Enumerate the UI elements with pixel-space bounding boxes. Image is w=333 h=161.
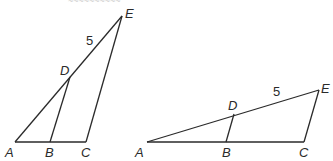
label-E-right: E xyxy=(321,81,330,96)
diagram-canvas: ~~~~~~~~~~ A B C D E 5 A B C D E 5 xyxy=(0,0,333,161)
label-A-left: A xyxy=(4,145,14,160)
label-B-right: B xyxy=(222,145,231,160)
segment-EC-right xyxy=(304,90,319,142)
segment-DB-left xyxy=(50,77,70,142)
label-D-right: D xyxy=(228,98,237,113)
length-label-DE-left: 5 xyxy=(86,33,93,48)
segment-AE-left xyxy=(15,16,122,142)
cutoff-text: ~~~~~~~~~~ xyxy=(68,0,121,6)
label-C-right: C xyxy=(299,145,309,160)
figure-left: A B C D E 5 xyxy=(4,6,134,160)
label-A-right: A xyxy=(134,145,144,160)
length-label-DE-right: 5 xyxy=(273,84,280,99)
label-C-left: C xyxy=(81,145,91,160)
label-E-left: E xyxy=(125,6,134,21)
figure-right: A B C D E 5 xyxy=(134,81,330,160)
label-B-left: B xyxy=(45,145,54,160)
label-D-left: D xyxy=(60,63,69,78)
